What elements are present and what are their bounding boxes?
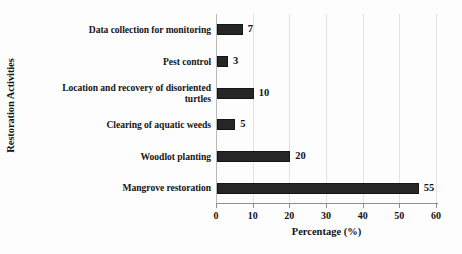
y-axis-line [216,14,217,204]
bar-value-label: 10 [259,87,270,98]
x-axis-tick-label: 60 [421,210,451,221]
bar [217,119,235,130]
category-label: Data collection for monitoring [15,24,211,36]
gridline [436,14,437,203]
bar-value-label: 20 [295,150,306,161]
plot-area: 0102030405060731052055 [216,14,437,204]
category-label-line: Location and recovery of disoriented [15,82,211,94]
x-axis-tick [289,204,290,208]
x-axis-tick-label: 10 [238,210,268,221]
x-axis-tick [326,204,327,208]
bar-value-label: 55 [424,182,435,193]
category-label-line: Mangrove restoration [15,182,211,194]
bar [217,24,243,35]
category-label: Mangrove restoration [15,182,211,194]
x-axis-tick-label: 50 [384,210,414,221]
bar-value-label: 3 [233,55,238,66]
x-axis-title: Percentage (%) [216,226,437,237]
category-label: Clearing of aquatic weeds [15,119,211,131]
bar-value-label: 5 [240,118,245,129]
x-axis-tick [253,204,254,208]
x-axis-tick [363,204,364,208]
x-axis-line [216,203,438,204]
bar-value-label: 7 [248,23,253,34]
x-axis-tick [216,204,217,208]
bar [217,56,228,67]
category-label-line: Data collection for monitoring [15,24,211,36]
category-axis-labels: Data collection for monitoringPest contr… [18,14,214,204]
x-axis-tick [436,204,437,208]
gridline [399,14,400,203]
x-axis-tick-label: 0 [201,210,231,221]
gridline [253,14,254,203]
bar [217,183,419,194]
x-axis-tick-label: 40 [348,210,378,221]
gridline [363,14,364,203]
category-label: Pest control [15,56,211,68]
gridline [326,14,327,203]
x-axis-tick-label: 20 [274,210,304,221]
category-label: Woodlot planting [15,151,211,163]
gridline [289,14,290,203]
y-axis-title-text: Restoration Activities [5,58,16,152]
category-label-line: Pest control [15,56,211,68]
category-label-line: Clearing of aquatic weeds [15,119,211,131]
category-label: Location and recovery of disorientedturt… [15,82,211,105]
x-axis-tick-label: 30 [311,210,341,221]
category-label-line: turtles [15,93,211,105]
category-label-line: Woodlot planting [15,151,211,163]
bar-chart: Restoration Activities Data collection f… [0,0,462,254]
bar [217,151,290,162]
bar [217,88,254,99]
x-axis-tick [399,204,400,208]
